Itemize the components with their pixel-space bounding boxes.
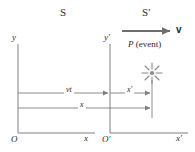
frame-label-s-prime: S′ [142, 7, 151, 18]
velocity-label: v [176, 25, 182, 35]
axis-label-y: y [12, 33, 16, 42]
event-label-text: (event) [134, 39, 162, 49]
origin-label-o: O [11, 135, 18, 144]
measure-label-vt: vt [64, 86, 74, 94]
axis-group-s [18, 44, 95, 133]
measure-label-x: x [78, 101, 86, 109]
axis-label-x: x [84, 134, 88, 143]
diagram-canvas [0, 0, 195, 152]
frame-label-s: S [60, 7, 66, 18]
reference-frame-diagram: S S′ y x y′ x′ O O′ v P (event) vt x′ x [0, 0, 195, 152]
event-point-marker [150, 71, 154, 75]
axis-label-x-prime: x′ [176, 134, 182, 143]
axis-group-s-prime [110, 44, 188, 133]
axis-label-y-prime: y′ [104, 33, 110, 42]
event-label: P (event) [128, 40, 161, 49]
origin-label-o-prime: O′ [102, 135, 110, 144]
measure-label-x-prime: x′ [125, 86, 134, 94]
